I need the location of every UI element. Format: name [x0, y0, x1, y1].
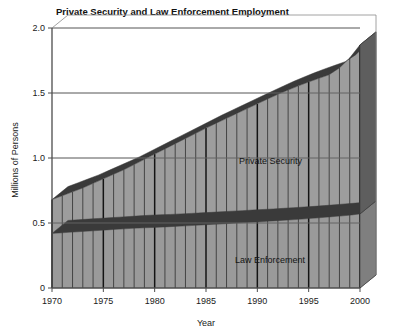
x-tick-label-1980: 1980 [145, 296, 165, 306]
x-tick-label-1990: 1990 [247, 296, 267, 306]
y-tick-label-2.0: 2.0 [32, 23, 45, 33]
private-security-right-face [360, 32, 376, 214]
x-axis-label: Year [197, 318, 215, 328]
y-axis-label: Millions of Persons [10, 122, 20, 198]
y-tick-label-0.5: 0.5 [32, 218, 45, 228]
x-tick-label-2000: 2000 [350, 296, 370, 306]
y-tick-label-1.0: 1.0 [32, 153, 45, 163]
law-enforcement-right-face [360, 201, 376, 288]
x-tick-label-1985: 1985 [196, 296, 216, 306]
x-tick-label-1970: 1970 [42, 296, 62, 306]
x-tick-label-1975: 1975 [93, 296, 113, 306]
x-tick-label-1995: 1995 [299, 296, 319, 306]
y-tick-label-0: 0 [40, 283, 45, 293]
series-label-law-enforcement: Law Enforcement [235, 255, 306, 265]
employment-area-chart: Private Security and Law Enforcement Emp… [0, 0, 398, 333]
series-label-private-security: Private Security [239, 156, 303, 166]
y-tick-label-1.5: 1.5 [32, 88, 45, 98]
chart-container: Private Security and Law Enforcement Emp… [0, 0, 398, 333]
